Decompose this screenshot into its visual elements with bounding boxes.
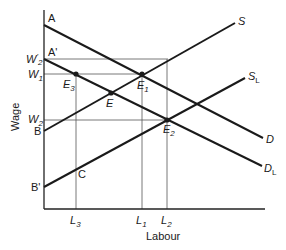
label-a-prime: A' — [48, 46, 57, 58]
label-l3: L3 — [70, 214, 81, 229]
label-w2-prime: W'2 — [26, 52, 43, 67]
point-e1 — [139, 71, 144, 76]
point-e3 — [73, 71, 78, 76]
label-a: A — [48, 12, 56, 24]
label-w1: W1 — [28, 68, 43, 83]
label-s: S — [238, 15, 246, 27]
labour-market-diagram: A A' W'2 W1 W2 B B' E3 E1 E E2 C S SL D … — [0, 0, 286, 250]
label-l2: L2 — [161, 214, 172, 229]
label-e2: E2 — [163, 123, 175, 138]
label-d: D — [266, 133, 274, 145]
label-l1: L1 — [136, 214, 147, 229]
point-e — [108, 90, 113, 95]
x-axis-title: Labour — [146, 230, 181, 242]
point-e2 — [164, 117, 169, 122]
y-axis-title: Wage — [9, 103, 21, 131]
label-b-prime: B' — [31, 181, 40, 193]
label-sl: SL — [248, 70, 260, 85]
label-e1: E1 — [137, 79, 149, 94]
curves — [44, 23, 263, 187]
label-e3: E3 — [63, 78, 75, 93]
label-b: B — [34, 125, 41, 137]
label-c: C — [78, 168, 86, 180]
supply-curve-sl — [44, 78, 245, 187]
demand-curve-d — [44, 25, 263, 138]
label-e: E — [106, 97, 114, 109]
label-dl: DL — [264, 162, 277, 177]
